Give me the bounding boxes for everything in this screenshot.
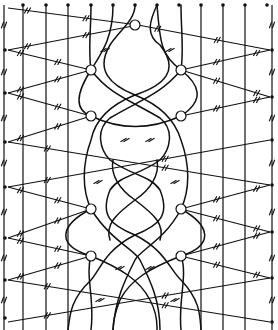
right-edge-pin — [270, 48, 274, 52]
twist-mark — [269, 297, 271, 304]
twist-mark — [269, 69, 271, 76]
twist-mark — [1, 297, 3, 304]
right-edge-pin — [270, 276, 274, 280]
worker-thread — [181, 256, 270, 278]
twist-mark — [269, 160, 271, 167]
right-edge-pin — [270, 183, 274, 187]
right-edge-pin — [270, 138, 274, 142]
worker-thread — [181, 97, 270, 116]
pin — [243, 3, 247, 7]
worker-thread — [8, 256, 91, 280]
worker-thread — [8, 187, 91, 209]
left-edge-pin — [3, 236, 7, 240]
worker-thread — [8, 116, 91, 142]
worker-thread — [8, 238, 91, 256]
braid-thread — [66, 209, 157, 330]
ring-pin — [176, 204, 186, 214]
twist-mark — [4, 22, 6, 29]
worker-thread — [8, 70, 91, 93]
pin — [133, 3, 137, 7]
worker-thread — [8, 50, 91, 70]
pin — [89, 3, 93, 7]
braid-thread — [84, 5, 169, 330]
central-braid-threads — [66, 5, 205, 330]
twist-mark — [269, 115, 271, 122]
pin — [221, 3, 225, 7]
twist-mark — [272, 255, 274, 262]
ring-pin — [86, 251, 96, 261]
left-edge-pin — [3, 140, 7, 144]
left-edge-pin — [3, 91, 7, 95]
pin — [177, 3, 181, 7]
twist-mark — [272, 160, 274, 167]
twist-mark — [269, 255, 271, 262]
twist-mark — [272, 297, 274, 304]
twist-mark — [1, 209, 3, 216]
twist-mark — [4, 209, 6, 216]
left-edge-pin — [3, 278, 7, 282]
passive-threads — [4, 5, 272, 330]
left-edge-pin — [3, 316, 7, 320]
twist-mark — [1, 69, 3, 76]
left-edge-pin — [3, 48, 7, 52]
twist-mark — [269, 209, 271, 216]
pin — [44, 3, 48, 7]
left-edge-pin — [3, 185, 7, 189]
pin — [21, 3, 25, 7]
twist-mark — [272, 209, 274, 216]
worker-thread — [181, 50, 270, 70]
ring-pin — [130, 20, 140, 30]
pin — [199, 3, 203, 7]
right-edge-pin — [270, 95, 274, 99]
twist-mark — [1, 115, 3, 122]
twist-mark — [4, 69, 6, 76]
ring-pin — [86, 111, 96, 121]
worker-thread — [8, 8, 138, 25]
twist-mark — [4, 160, 6, 167]
ring-pin — [176, 251, 186, 261]
twist-mark — [1, 160, 3, 167]
worker-thread — [181, 185, 270, 209]
ring-pin — [176, 111, 186, 121]
twist-mark — [272, 69, 274, 76]
twist-mark — [272, 115, 274, 122]
right-edge-pin — [270, 230, 274, 234]
worker-thread — [8, 209, 91, 238]
ring-pin — [86, 65, 96, 75]
worker-threads — [8, 8, 270, 322]
twist-mark — [4, 297, 6, 304]
worker-thread — [8, 142, 270, 185]
right-edge-pin — [270, 320, 274, 324]
braid-thread — [109, 160, 162, 240]
pin — [265, 3, 269, 7]
worker-thread — [138, 25, 270, 50]
pin — [155, 3, 159, 7]
worker-thread — [181, 232, 270, 256]
pin — [111, 3, 115, 7]
twist-mark — [269, 22, 271, 29]
pin — [66, 3, 70, 7]
worker-thread — [181, 209, 270, 232]
ring-pin — [176, 65, 186, 75]
lace-pricking-svg — [0, 0, 278, 330]
ring-pin — [86, 204, 96, 214]
twist-mark — [1, 255, 3, 262]
twist-mark — [272, 22, 274, 29]
worker-thread — [8, 25, 138, 50]
twist-mark — [4, 115, 6, 122]
twist-mark — [4, 255, 6, 262]
twist-mark — [1, 22, 3, 29]
